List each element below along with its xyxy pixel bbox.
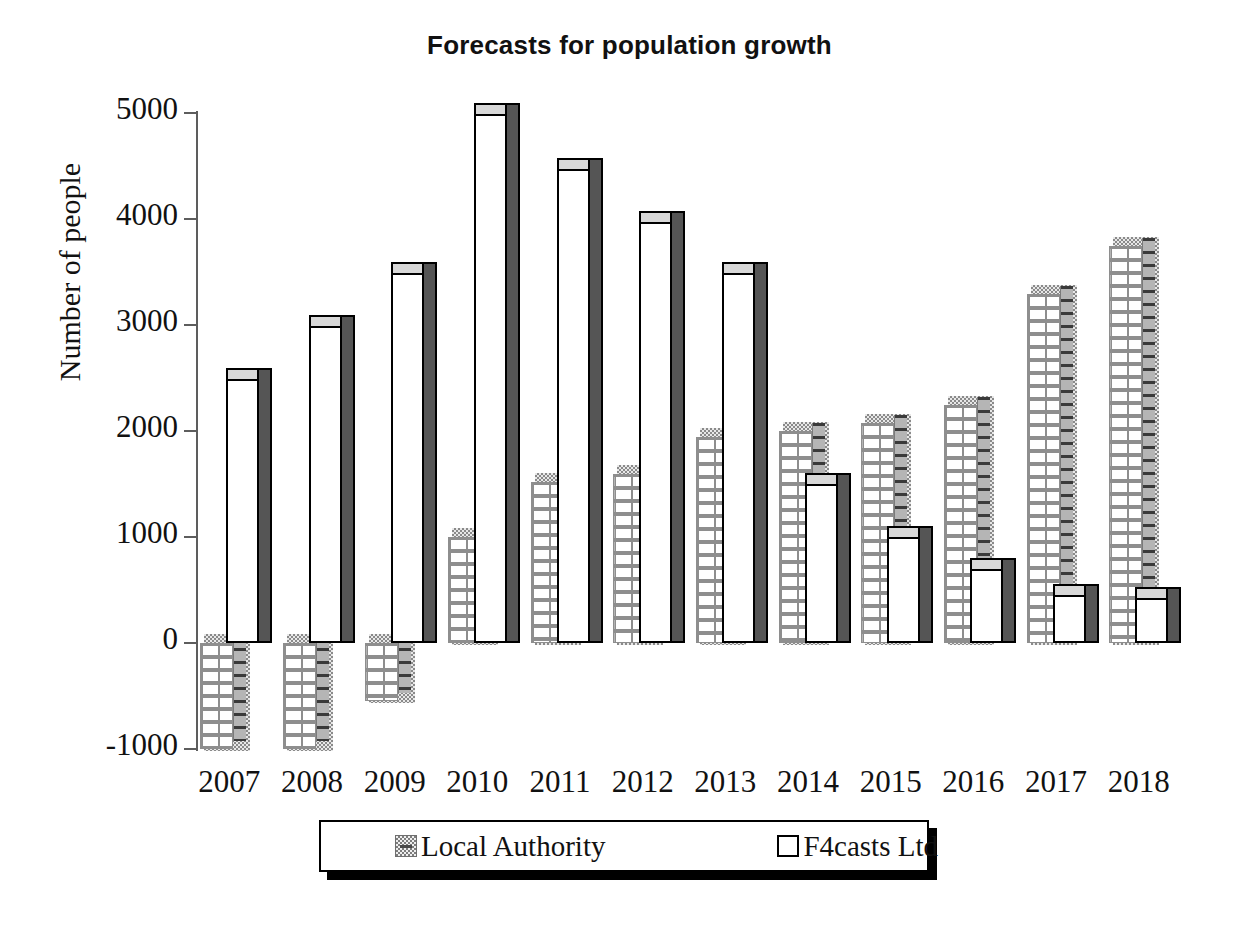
bar-front-face (474, 114, 507, 643)
bar-f4casts[interactable] (527, 90, 610, 770)
bar-3d-side-face (257, 368, 272, 644)
bar-3d-side-face (340, 315, 355, 643)
bar-front-face (1053, 595, 1086, 643)
bar-group (361, 90, 444, 770)
bar-group (444, 90, 527, 770)
y-tick-label: 4000 (116, 199, 178, 230)
bar-3d-side-face (588, 158, 603, 643)
chart-legend[interactable]: Local Authority F4casts Ltd (319, 820, 929, 872)
x-tick-label: 2017 (1015, 764, 1098, 800)
x-tick-label: 2013 (684, 764, 767, 800)
bar-group (1105, 90, 1188, 770)
bar-f4casts[interactable] (775, 90, 858, 770)
bar-f4casts[interactable] (692, 90, 775, 770)
bar-3d-side-face (1001, 558, 1016, 643)
x-tick-label: 2007 (188, 764, 271, 800)
bar-f4casts[interactable] (1023, 90, 1106, 770)
bar-3d-side-face (918, 526, 933, 643)
legend-label: F4casts Ltd (803, 832, 938, 861)
x-tick-label: 2012 (601, 764, 684, 800)
bar-front-face (226, 379, 259, 644)
bar-group (940, 90, 1023, 770)
y-tick-label: 5000 (116, 93, 178, 124)
bar-3d-side-face (422, 262, 437, 643)
bar-3d-side-face (670, 211, 685, 643)
x-tick-label: 2011 (519, 764, 602, 800)
bar-f4casts[interactable] (444, 90, 527, 770)
bar-3d-side-face (1166, 587, 1181, 643)
y-tick-label: 2000 (116, 411, 178, 442)
legend-label: Local Authority (421, 832, 605, 861)
bar-front-face (970, 569, 1003, 643)
x-tick-label: 2009 (353, 764, 436, 800)
bar-group (279, 90, 362, 770)
bar-3d-side-face (836, 473, 851, 643)
bar-group (527, 90, 610, 770)
y-axis-label: Number of people (53, 122, 87, 422)
bar-front-face (557, 169, 590, 643)
bar-f4casts[interactable] (361, 90, 444, 770)
bar-group (775, 90, 858, 770)
x-tick-label: 2014 (767, 764, 850, 800)
x-tick-label: 2015 (849, 764, 932, 800)
bar-group (196, 90, 279, 770)
bar-3d-side-face (753, 262, 768, 643)
bar-front-face (1135, 598, 1168, 643)
bar-3d-side-face (1084, 584, 1099, 643)
bar-front-face (887, 537, 920, 643)
bar-front-face (309, 326, 342, 643)
legend-item-local-authority[interactable]: Local Authority (395, 832, 605, 861)
bar-front-face (639, 222, 672, 643)
bar-front-face (805, 484, 838, 643)
bar-f4casts[interactable] (857, 90, 940, 770)
chart-root: Forecasts for population growth Number o… (0, 0, 1259, 942)
bar-3d-side-face (505, 103, 520, 643)
legend-swatch-icon (395, 835, 417, 857)
bar-group (857, 90, 940, 770)
legend-item-f4casts[interactable]: F4casts Ltd (777, 832, 938, 861)
bar-front-face (391, 273, 424, 643)
bar-front-face (722, 273, 755, 643)
x-tick-label: 2018 (1097, 764, 1180, 800)
legend-swatch-icon (777, 835, 799, 857)
bar-f4casts[interactable] (196, 90, 279, 770)
y-tick-label: 0 (163, 623, 179, 654)
y-tick-label: -1000 (106, 729, 178, 760)
bar-group (1023, 90, 1106, 770)
bar-group (692, 90, 775, 770)
bar-f4casts[interactable] (1105, 90, 1188, 770)
bar-f4casts[interactable] (609, 90, 692, 770)
y-tick-label: 3000 (116, 305, 178, 336)
bar-f4casts[interactable] (940, 90, 1023, 770)
x-tick-label: 2010 (436, 764, 519, 800)
x-tick-label: 2008 (271, 764, 354, 800)
x-tick-label: 2016 (932, 764, 1015, 800)
bar-group (609, 90, 692, 770)
y-tick-label: 1000 (116, 517, 178, 548)
bar-f4casts[interactable] (279, 90, 362, 770)
plot-area (196, 90, 1188, 770)
chart-title: Forecasts for population growth (0, 30, 1259, 61)
